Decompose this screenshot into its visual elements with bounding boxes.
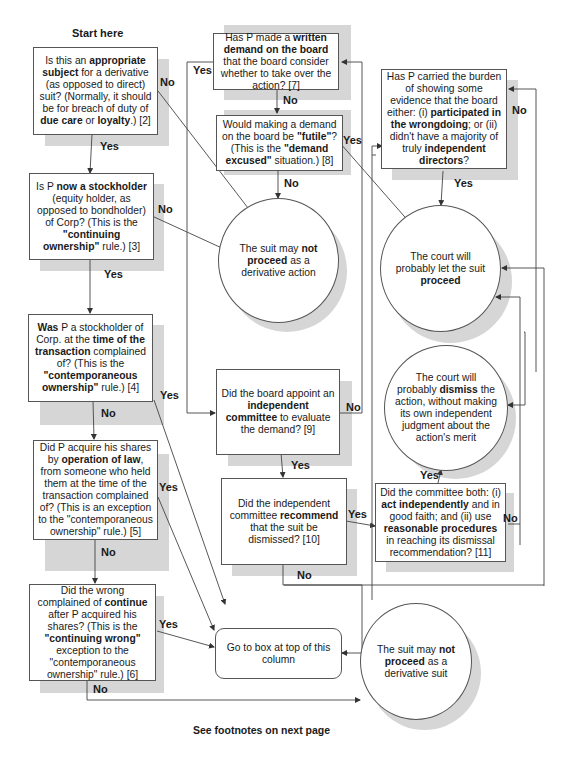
question-stockholder-at-transaction: Was P a stockholder of Corp. at the time… (28, 314, 153, 402)
edge-label-q3-yes: Yes (104, 268, 123, 280)
node-text: The court will probably dismiss the acti… (395, 372, 497, 444)
edge-label-q4-no: No (101, 407, 116, 419)
node-text: The suit may not proceed as a derivative… (371, 644, 461, 680)
question-committee-recommend: Did the independent committee recommend … (221, 478, 347, 565)
node-text: The suit may not proceed as a derivative… (229, 243, 328, 279)
edge-label-q2-yes: Yes (100, 140, 119, 152)
question-written-demand: Has P made a written demand on the board… (213, 33, 339, 90)
edge-label-q10-yes: Yes (348, 508, 367, 520)
edge-label-q3-no: No (158, 203, 173, 215)
edge-label-q11-yes: Yes (420, 469, 439, 481)
node-text: Did the board appoint an independent com… (221, 388, 335, 436)
question-burden-of-evidence: Has P carried the burden of showing some… (381, 69, 507, 169)
footnotes-note: See footnotes on next page (193, 724, 330, 736)
edge-label-q11-no: No (503, 512, 518, 524)
node-text: Did the committee both: (i) act independ… (380, 487, 501, 559)
edge-label-q5-yes: Yes (159, 481, 178, 493)
edge-label-q9-no: No (346, 401, 361, 413)
start-here-label: Start here (72, 27, 123, 39)
node-text: Was P a stockholder of Corp. at the time… (33, 322, 148, 394)
node-text: Did P acquire his shares by operation of… (38, 442, 153, 538)
edge-label-q9-yes: Yes (291, 459, 310, 471)
edge-label-q8-yes: Yes (343, 134, 362, 146)
goto-top-of-column: Go to box at top of this column (215, 628, 342, 679)
edge-label-q6-yes: Yes (159, 618, 178, 630)
edge-label-q7-no: No (283, 94, 298, 106)
question-continuing-wrong: Did the wrong complained of continue aft… (29, 584, 156, 681)
question-now-stockholder: Is P now a stockholder (equity holder, a… (29, 173, 154, 260)
edge-label-q10-no: No (297, 569, 312, 581)
node-text: Did the wrong complained of continue aft… (34, 585, 151, 681)
node-text: Is this an appropriate subject for a der… (38, 55, 153, 127)
node-text: Go to box at top of this column (220, 642, 337, 666)
edge-label-q4-yes: Yes (160, 389, 179, 401)
question-demand-futile: Would making a demand on the board be "f… (216, 115, 343, 171)
edge-label-q6-no: No (93, 683, 108, 695)
edge-label-q2-no: No (160, 76, 175, 88)
edge-label-burden-yes: Yes (454, 177, 473, 189)
question-independent-committee: Did the board appoint an independent com… (216, 369, 340, 455)
outcome-not-derivative-action: The suit may not proceed as a derivative… (218, 198, 339, 323)
outcome-dismiss: The court will probably dismiss the acti… (384, 345, 508, 471)
node-text: Has P made a written demand on the board… (218, 32, 334, 92)
node-text: Did the independent committee recommend … (226, 498, 342, 546)
question-appropriate-subject: Is this an appropriate subject for a der… (33, 47, 158, 135)
question-operation-of-law: Did P acquire his shares by operation of… (33, 440, 158, 540)
node-text: Would making a demand on the board be "f… (221, 119, 338, 167)
outcome-proceed: The court will probably let the suit pro… (380, 205, 501, 332)
node-text: Is P now a stockholder (equity holder, a… (34, 181, 149, 253)
edge-label-q7-yes: Yes (193, 64, 212, 76)
question-committee-independent-procedures: Did the committee both: (i) act independ… (375, 483, 506, 562)
node-text: Has P carried the burden of showing some… (386, 71, 502, 167)
edge-label-burden-no: No (512, 104, 527, 116)
edge-label-q8-no: No (284, 177, 299, 189)
node-text: The court will probably let the suit pro… (391, 251, 490, 287)
outcome-not-derivative-suit: The suit may not proceed as a derivative… (360, 603, 472, 720)
edge-label-q5-no: No (101, 546, 116, 558)
